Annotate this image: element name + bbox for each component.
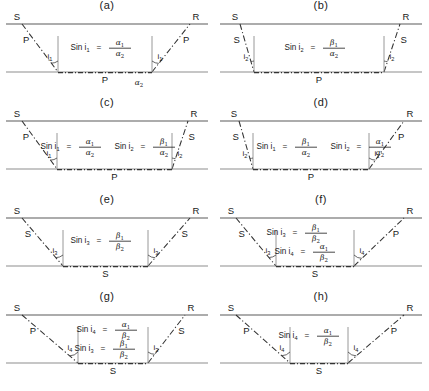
equation-denominator-c-0: α2 xyxy=(86,148,95,158)
source-label-e: S xyxy=(14,205,20,216)
receiver-label-b: R xyxy=(403,11,410,22)
angle-label-left-a: i1 xyxy=(48,52,53,62)
up-going-ray-a xyxy=(152,24,190,72)
panel-g: (g)SRPSSi4i3Sin i4=α1β2Sin i3=β1β2 xyxy=(0,291,214,388)
equation-equals-f-1: = xyxy=(301,247,306,256)
up-leg-label-g: S xyxy=(178,325,184,336)
equation-equals-c-0: = xyxy=(67,142,72,151)
equation-numerator-f-0: β1 xyxy=(311,223,320,233)
equation-equals-g-0: = xyxy=(103,325,108,334)
up-leg-label-f: P xyxy=(393,228,399,239)
up-going-ray-c xyxy=(172,121,188,169)
equation-equals-c-1: = xyxy=(141,142,146,151)
angle-label-left-f: i3 xyxy=(266,246,271,256)
receiver-label-a: R xyxy=(193,11,200,22)
equation-numerator-c-1: β1 xyxy=(159,137,168,147)
head-wave-label-d: P xyxy=(308,171,314,182)
angle-label-right-c: i2 xyxy=(178,149,183,159)
panel-drawing-h: SRPPSi4i4Sin i4=α1β2 xyxy=(214,291,428,388)
panel-drawing-d: SRSPPi2i1Sin i1=β1α2Sin i2=α1α2 xyxy=(214,97,428,194)
equation-lhs-d-1: Sin i2 xyxy=(330,142,349,152)
receiver-label-e: R xyxy=(193,205,200,216)
panel-drawing-a: SRPPPα2i1i1Sin i1=α1α2 xyxy=(0,0,214,97)
panel-a: (a)SRPPPα2i1i1Sin i1=α1α2 xyxy=(0,0,214,97)
head-wave-label-b: P xyxy=(316,74,322,85)
up-going-ray-e xyxy=(148,218,190,266)
angle-label-left-g: i4 xyxy=(68,343,73,353)
equation-numerator-a-0: α1 xyxy=(116,38,125,48)
up-going-ray-g xyxy=(148,315,185,363)
equation-denominator-f-1: β2 xyxy=(319,253,328,263)
equation-denominator-e-0: β2 xyxy=(115,242,124,252)
panel-drawing-g: SRPSSi4i3Sin i4=α1β2Sin i3=β1β2 xyxy=(0,291,214,388)
down-leg-label-c: P xyxy=(23,131,29,142)
equation-lhs-g-1: Sin i3 xyxy=(74,344,93,354)
source-label-h: S xyxy=(228,302,234,313)
equation-denominator-a-0: α2 xyxy=(116,49,125,59)
equation-lhs-f-1: Sin i4 xyxy=(274,247,293,257)
equation-denominator-h-0: β2 xyxy=(323,337,332,347)
up-leg-label-b: S xyxy=(400,34,406,45)
equation-lhs-f-0: Sin i3 xyxy=(266,228,285,238)
head-wave-label-a: P xyxy=(102,74,108,85)
equation-lhs-a-0: Sin i1 xyxy=(70,43,89,53)
equation-lhs-g-0: Sin i4 xyxy=(76,325,95,335)
panel-drawing-c: SRPSPi1i2Sin i1=α1α2Sin i2=β1α2 xyxy=(0,97,214,194)
angle-label-right-e: i3 xyxy=(154,246,159,256)
equation-numerator-c-0: α1 xyxy=(86,137,95,147)
equation-denominator-d-0: α2 xyxy=(302,148,311,158)
angle-label-right-f: i4 xyxy=(360,246,365,256)
source-label-c: S xyxy=(14,108,20,119)
down-leg-label-b: S xyxy=(234,34,240,45)
up-leg-label-e: S xyxy=(182,228,188,239)
equation-numerator-d-1: α1 xyxy=(376,137,385,147)
equation-denominator-d-1: α2 xyxy=(376,148,385,158)
head-wave-label-e: S xyxy=(102,268,108,279)
angle-label-left-b: i2 xyxy=(244,52,249,62)
up-going-ray-d xyxy=(369,121,404,169)
lower-medium-label-a: α2 xyxy=(135,78,144,88)
equation-equals-g-1: = xyxy=(101,344,106,353)
panel-drawing-b: SRSSPi2i2Sin i2=β1α2 xyxy=(214,0,428,97)
panel-d: (d)SRSPPi2i1Sin i1=β1α2Sin i2=α1α2 xyxy=(214,97,428,194)
down-leg-label-g: P xyxy=(30,325,36,336)
equation-numerator-g-0: α1 xyxy=(122,320,131,330)
equation-lhs-c-1: Sin i2 xyxy=(114,142,133,152)
equation-denominator-c-1: α2 xyxy=(160,148,169,158)
equation-equals-h-0: = xyxy=(305,331,310,340)
panel-drawing-e: SRSSSi3i3Sin i3=β1β2 xyxy=(0,194,214,291)
panel-drawing-f: SRSPSi3i4Sin i3=β1β2Sin i4=α1β2 xyxy=(214,194,428,291)
down-leg-label-a: P xyxy=(23,34,29,45)
equation-equals-f-0: = xyxy=(293,228,298,237)
angle-label-right-b: i2 xyxy=(390,52,395,62)
source-label-f: S xyxy=(228,205,234,216)
down-going-ray-e xyxy=(22,218,63,266)
equation-lhs-b-0: Sin i2 xyxy=(284,43,303,53)
equation-lhs-e-0: Sin i3 xyxy=(70,236,89,246)
down-leg-label-h: P xyxy=(243,325,249,336)
receiver-label-d: R xyxy=(407,108,414,119)
ray-path-figure: (a)SRPPPα2i1i1Sin i1=α1α2(b)SRSSPi2i2Sin… xyxy=(0,0,429,391)
panel-f: (f)SRSPSi3i4Sin i3=β1β2Sin i4=α1β2 xyxy=(214,194,428,291)
equation-equals-e-0: = xyxy=(97,236,102,245)
head-wave-label-c: P xyxy=(111,171,117,182)
equation-lhs-h-0: Sin i4 xyxy=(278,331,297,341)
panel-e: (e)SRSSSi3i3Sin i3=β1β2 xyxy=(0,194,214,291)
down-going-ray-f xyxy=(236,218,276,266)
angle-label-right-g: i3 xyxy=(154,343,159,353)
source-label-d: S xyxy=(231,108,237,119)
angle-label-right-h: i4 xyxy=(354,343,359,353)
panel-h: (h)SRPPSi4i4Sin i4=α1β2 xyxy=(214,291,428,388)
equation-numerator-h-0: α1 xyxy=(324,326,333,336)
panel-b: (b)SRSSPi2i2Sin i2=β1α2 xyxy=(214,0,428,97)
receiver-label-h: R xyxy=(407,302,414,313)
equation-equals-d-1: = xyxy=(357,142,362,151)
equation-numerator-d-0: β1 xyxy=(301,137,310,147)
up-leg-label-a: P xyxy=(183,34,189,45)
down-going-ray-b xyxy=(240,24,254,72)
equation-equals-a-0: = xyxy=(97,43,102,52)
equation-numerator-b-0: β1 xyxy=(329,38,338,48)
receiver-label-f: R xyxy=(407,205,414,216)
up-going-ray-b xyxy=(384,24,400,72)
up-going-ray-h xyxy=(348,315,404,363)
